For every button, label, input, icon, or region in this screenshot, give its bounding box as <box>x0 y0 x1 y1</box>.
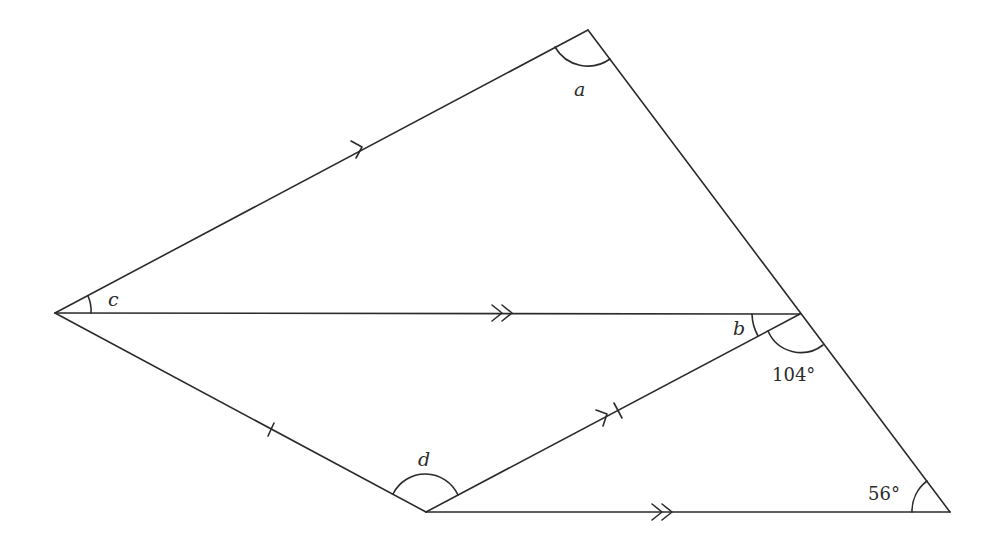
single-arrow-mark-lower <box>596 410 607 426</box>
label-a: a <box>574 78 585 100</box>
angle-arc-104 <box>768 331 823 353</box>
label-c: c <box>108 288 119 310</box>
edge-bottom-midright <box>426 314 800 512</box>
angle-arc-b <box>752 314 758 336</box>
angle-arc-d <box>393 474 458 495</box>
label-d: d <box>418 448 430 470</box>
angle-arc-56 <box>912 481 927 512</box>
tick-mark-lower-right <box>614 403 622 418</box>
geometry-diagram: a c b 104° d 56° <box>0 0 997 539</box>
label-56-degrees: 56° <box>868 483 900 504</box>
angle-arc-c <box>88 296 91 313</box>
label-b: b <box>733 317 745 339</box>
label-104-degrees: 104° <box>772 364 815 385</box>
edge-top-bottom-right <box>588 30 950 512</box>
edge-left-midright <box>55 313 800 314</box>
angle-arc-a <box>555 47 610 66</box>
edge-left-bottom <box>55 313 426 512</box>
edge-left-top <box>55 30 588 313</box>
